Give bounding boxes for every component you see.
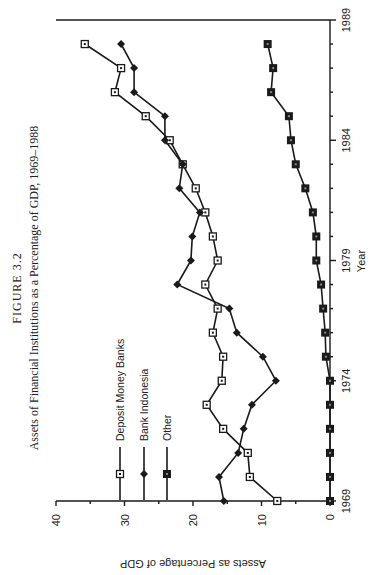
y-tick-label: 0 — [324, 514, 336, 520]
legend-label: Deposit Money Banks — [114, 339, 126, 441]
data-point — [240, 425, 248, 433]
x-tick-label: 1969 — [340, 489, 352, 513]
y-axis-ticks: 010203040 — [50, 501, 336, 526]
data-point — [130, 64, 138, 72]
rotated-line-chart: FIGURE 3.2 Assets of Financial Instituti… — [0, 0, 385, 575]
data-point — [173, 281, 181, 289]
series-deposit-money-banks — [81, 41, 280, 505]
legend-label: Bank Indonesia — [138, 368, 150, 441]
data-point — [188, 232, 196, 240]
data-point — [117, 40, 125, 48]
legend: Deposit Money Banks Bank Indonesia Other — [114, 339, 173, 500]
y-axis-label: Assets as Percentage of GDP — [120, 558, 266, 570]
x-axis-label: Year — [355, 250, 367, 273]
x-tick-label: 1984 — [340, 128, 352, 152]
y-tick-label: 40 — [50, 514, 62, 526]
series-other — [264, 40, 334, 505]
figure-caption: Assets of Financial Institutions as a Pe… — [27, 126, 41, 451]
y-tick-label: 20 — [187, 514, 199, 526]
data-point — [187, 257, 195, 265]
x-axis-ticks: 19691974197919841989 — [330, 8, 352, 513]
data-point — [225, 305, 233, 313]
figure-number: FIGURE 3.2 — [10, 252, 24, 323]
filled-diamond-marker-icon — [140, 470, 148, 478]
legend-item-other: Other — [161, 414, 173, 500]
x-tick-label: 1989 — [340, 8, 352, 32]
x-tick-label: 1979 — [340, 248, 352, 272]
x-tick-label: 1974 — [340, 369, 352, 393]
legend-item-deposit-money-banks: Deposit Money Banks — [114, 339, 126, 500]
y-tick-label: 10 — [256, 514, 268, 526]
legend-item-bank-indonesia: Bank Indonesia — [138, 368, 150, 500]
y-tick-label: 30 — [119, 514, 131, 526]
legend-label: Other — [161, 414, 173, 441]
